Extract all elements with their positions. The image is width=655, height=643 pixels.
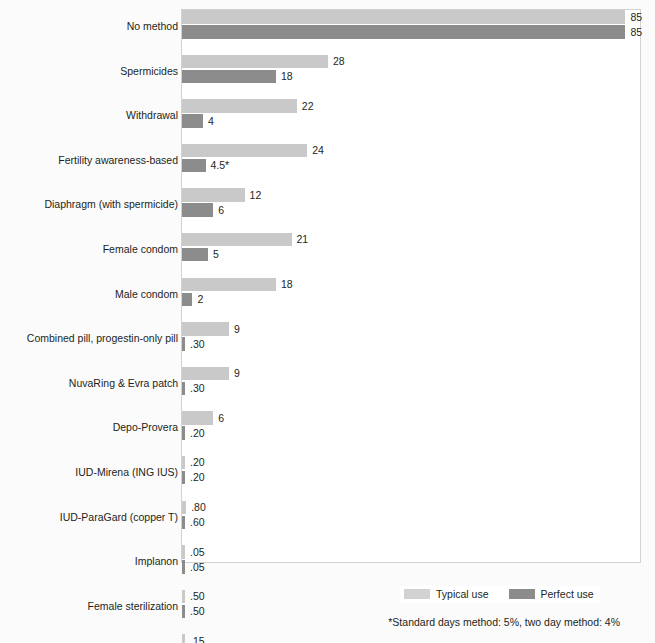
bar-rect: [182, 99, 297, 113]
category-label: NuvaRing & Evra patch: [0, 377, 178, 389]
bar-row: Implanon.05.05: [0, 544, 655, 589]
bar-rect: [182, 456, 185, 470]
bar-rect: [182, 634, 185, 643]
bar-value-label: 18: [281, 278, 293, 291]
bar-rect: [182, 322, 229, 336]
bar-rect: [182, 560, 185, 574]
category-label: Male condom: [0, 288, 178, 300]
category-label: Female condom: [0, 243, 178, 255]
category-label: No method: [0, 20, 178, 32]
bar-value-label: 18: [281, 70, 293, 83]
legend-swatch-icon: [509, 589, 535, 599]
bar-value-label: 21: [297, 233, 309, 246]
bar-rect: [182, 337, 185, 351]
bar-row: Diaphragm (with spermicide)126: [0, 187, 655, 232]
legend-label: Typical use: [436, 588, 489, 600]
bar-value-label: 6: [218, 204, 224, 217]
bar-value-label: 12: [250, 189, 262, 202]
bar-rect: [182, 471, 185, 485]
bar-rect: [182, 70, 276, 84]
bar-rect: [182, 188, 245, 202]
bar-value-label: .20: [190, 427, 205, 440]
category-label: Implanon: [0, 555, 178, 567]
chart-legend: Typical usePerfect use: [400, 586, 600, 603]
bar-value-label: .60: [190, 516, 205, 529]
bar-row: No method8585: [0, 9, 655, 54]
bar-row: IUD-ParaGard (copper T).80.60: [0, 500, 655, 545]
bar-row: Fertility awareness-based244.5*: [0, 143, 655, 188]
bar-rect: [182, 293, 192, 307]
bar-row: Female condom215: [0, 232, 655, 277]
category-label: Spermicides: [0, 65, 178, 77]
bar-value-label: 4.5*: [211, 159, 230, 172]
bar-rows: No method8585Spermicides2818Withdrawal22…: [0, 9, 655, 643]
bar-row: Withdrawal224: [0, 98, 655, 143]
bar-rect: [182, 55, 328, 69]
bar-rect: [182, 426, 185, 440]
bar-value-label: .30: [190, 338, 205, 351]
category-label: Female sterilization: [0, 600, 178, 612]
bar-row: Combined pill, progestin-only pill9.30: [0, 321, 655, 366]
category-label: IUD-ParaGard (copper T): [0, 511, 178, 523]
legend-label: Perfect use: [541, 588, 594, 600]
category-label: Fertility awareness-based: [0, 154, 178, 166]
bar-rect: [182, 233, 292, 247]
bar-value-label: 9: [234, 323, 240, 336]
legend-item-typical-use[interactable]: Typical use: [404, 588, 489, 600]
bar-rect: [182, 278, 276, 292]
chart-container: No method8585Spermicides2818Withdrawal22…: [0, 0, 655, 643]
bar-rect: [182, 25, 625, 39]
bar-value-label: .05: [190, 561, 205, 574]
legend-swatch-icon: [404, 589, 430, 599]
category-label: Withdrawal: [0, 109, 178, 121]
bar-rect: [182, 144, 307, 158]
bar-value-label: 24: [312, 144, 324, 157]
category-label: Diaphragm (with spermicide): [0, 198, 178, 210]
bar-row: Spermicides2818: [0, 54, 655, 99]
bar-row: NuvaRing & Evra patch9.30: [0, 366, 655, 411]
bar-row: Depo-Provera6.20: [0, 410, 655, 455]
bar-rect: [182, 203, 213, 217]
bar-value-label: .80: [191, 501, 206, 514]
bar-value-label: .20: [190, 456, 205, 469]
bar-rect: [182, 10, 625, 24]
category-label: Depo-Provera: [0, 421, 178, 433]
bar-rect: [182, 590, 185, 604]
bar-value-label: .20: [190, 471, 205, 484]
bar-value-label: 5: [213, 248, 219, 261]
bar-value-label: .30: [190, 382, 205, 395]
bar-value-label: 4: [208, 115, 214, 128]
bar-rect: [182, 159, 206, 173]
bar-rect: [182, 382, 185, 396]
bar-rect: [182, 114, 203, 128]
bar-rect: [182, 367, 229, 381]
bar-value-label: 6: [218, 412, 224, 425]
bar-value-label: .05: [190, 546, 205, 559]
bar-value-label: 22: [302, 100, 314, 113]
bar-row: IUD-Mirena (ING IUS).20.20: [0, 455, 655, 500]
bar-rect: [182, 516, 185, 530]
bar-rect: [182, 501, 186, 515]
legend-item-perfect-use[interactable]: Perfect use: [509, 588, 594, 600]
bar-value-label: 85: [630, 26, 642, 39]
bar-value-label: .15: [190, 635, 205, 643]
bar-rect: [182, 411, 213, 425]
bar-row: Male sterilization.15.10: [0, 633, 655, 643]
bar-rect: [182, 545, 185, 559]
bar-value-label: .50: [190, 590, 205, 603]
category-label: IUD-Mirena (ING IUS): [0, 466, 178, 478]
bar-value-label: 9: [234, 367, 240, 380]
bar-value-label: 85: [630, 11, 642, 24]
bar-rect: [182, 248, 208, 262]
category-label: Combined pill, progestin-only pill: [0, 332, 178, 344]
bar-row: Male condom182: [0, 277, 655, 322]
bar-value-label: 28: [333, 55, 345, 68]
bar-value-label: 2: [197, 293, 203, 306]
chart-footnote: *Standard days method: 5%, two day metho…: [0, 616, 620, 628]
